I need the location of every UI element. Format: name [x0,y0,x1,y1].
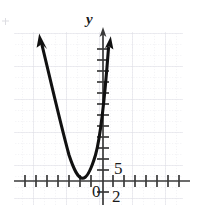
edge-artifact [2,18,9,25]
y-axis-label: y [86,12,93,27]
parabola-figure: y 5 0 2 [0,0,197,215]
origin-label: 0 [92,183,101,200]
x-tick-label-2: 2 [112,188,121,205]
y-tick-label-5: 5 [114,160,123,177]
